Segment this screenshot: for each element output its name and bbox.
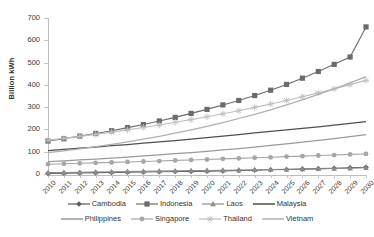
data-point-circle — [332, 153, 337, 158]
legend-label: Laos — [226, 199, 242, 208]
data-point-plus — [283, 97, 289, 103]
legend-swatch-thailand — [199, 214, 221, 224]
data-point-plus — [204, 114, 210, 120]
legend-marker-icon — [131, 214, 153, 224]
data-point-circle — [157, 159, 162, 164]
data-point-square — [189, 111, 194, 116]
legend-label: Malaysia — [277, 199, 307, 208]
legend-swatch-singapore — [131, 214, 153, 224]
data-point-square — [316, 69, 321, 74]
data-point-circle — [189, 158, 194, 163]
legend-swatch-philippines — [61, 214, 83, 224]
data-point-square — [348, 54, 353, 59]
legend-item-vietnam[interactable]: Vietnam — [262, 214, 313, 224]
data-point-plus — [252, 104, 258, 110]
data-point-plus — [45, 137, 51, 143]
data-point-diamond — [76, 201, 82, 207]
legend-item-singapore[interactable]: Singapore — [131, 214, 189, 224]
data-point-plus — [77, 133, 83, 139]
legend-item-cambodia[interactable]: Cambodia — [68, 199, 126, 209]
data-point-circle — [125, 160, 130, 165]
legend-marker-icon — [136, 199, 158, 209]
legend-label: Cambodia — [92, 199, 126, 208]
legend-row-top: CambodiaIndonesiaLaosMalaysia — [0, 196, 374, 211]
legend-item-philippines[interactable]: Philippines — [61, 214, 121, 224]
legend-item-laos[interactable]: Laos — [202, 199, 242, 209]
data-point-square — [220, 102, 225, 107]
legend-marker-icon — [199, 214, 221, 224]
series-line — [48, 27, 366, 141]
data-point-plus — [140, 124, 146, 130]
data-point-plus — [61, 135, 67, 141]
data-point-circle — [364, 152, 369, 157]
data-point-square — [268, 88, 273, 93]
data-point-circle — [348, 152, 353, 157]
data-point-circle — [268, 155, 273, 160]
data-point-circle — [109, 160, 114, 165]
data-point-circle — [284, 154, 289, 159]
data-point-square — [284, 82, 289, 87]
data-point-circle — [316, 153, 321, 158]
data-point-square — [363, 24, 368, 29]
data-point-square — [300, 76, 305, 81]
data-point-circle — [93, 160, 98, 165]
line-chart: Billion kWh 0100200300400500600700 20102… — [0, 0, 374, 237]
data-point-circle — [221, 156, 226, 161]
data-point-plus — [207, 215, 213, 221]
legend-row-bottom: PhilippinesSingaporeThailandVietnam — [0, 211, 374, 226]
legend-label: Vietnam — [286, 214, 313, 223]
data-point-square — [144, 201, 149, 206]
legend-marker-icon — [262, 214, 284, 224]
legend-marker-icon — [202, 199, 224, 209]
legend-label: Singapore — [155, 214, 189, 223]
legend-item-malaysia[interactable]: Malaysia — [253, 199, 307, 209]
data-point-plus — [236, 108, 242, 114]
data-point-square — [252, 93, 257, 98]
data-point-circle — [140, 216, 145, 221]
data-point-square — [204, 107, 209, 112]
data-point-circle — [62, 161, 67, 166]
legend-swatch-cambodia — [68, 199, 90, 209]
data-point-plus — [267, 101, 273, 107]
data-point-plus — [172, 119, 178, 125]
data-point-plus — [108, 129, 114, 135]
legend-marker-icon — [253, 199, 275, 209]
data-point-circle — [205, 157, 210, 162]
legend-swatch-laos — [202, 199, 224, 209]
legend-label: Thailand — [223, 214, 252, 223]
legend-item-thailand[interactable]: Thailand — [199, 214, 252, 224]
legend-swatch-vietnam — [262, 214, 284, 224]
data-point-circle — [300, 154, 305, 159]
data-point-plus — [188, 116, 194, 122]
legend-item-indonesia[interactable]: Indonesia — [136, 199, 193, 209]
data-point-plus — [220, 111, 226, 117]
data-point-square — [236, 98, 241, 103]
legend-swatch-indonesia — [136, 199, 158, 209]
chart-legend: CambodiaIndonesiaLaosMalaysia Philippine… — [0, 196, 374, 226]
data-point-circle — [236, 156, 241, 161]
legend-swatch-malaysia — [253, 199, 275, 209]
data-point-plus — [156, 122, 162, 128]
data-point-circle — [252, 155, 257, 160]
data-point-circle — [46, 162, 51, 167]
data-point-circle — [77, 161, 82, 166]
legend-label: Philippines — [85, 214, 121, 223]
data-point-circle — [141, 159, 146, 164]
data-point-plus — [93, 131, 99, 137]
data-point-square — [332, 62, 337, 67]
legend-marker-icon — [61, 214, 83, 224]
data-point-plus — [124, 127, 130, 133]
legend-marker-icon — [68, 199, 90, 209]
data-point-circle — [173, 158, 178, 163]
legend-label: Indonesia — [160, 199, 193, 208]
